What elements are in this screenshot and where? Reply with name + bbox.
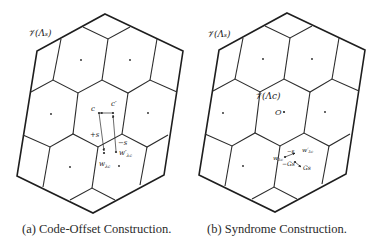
code-offset-vectors: [98, 112, 117, 154]
caption-panel-a: (a) Code-Offset Construction.: [22, 222, 171, 237]
label-c: c: [91, 105, 95, 113]
arrow-minus-s: [113, 115, 116, 151]
label-c-prime: c′: [111, 100, 117, 108]
label-w-prime-lambda-c: w′λc: [302, 146, 314, 154]
figure-canvas: 𝒱(Λₛ) c c′ +s −s wλc w′λc: [0, 0, 375, 246]
coarse-region-label-b: 𝒱(Λₛ): [207, 29, 231, 39]
fine-voronoi-cell-edges: [205, 26, 359, 199]
label-minus-s: −s: [118, 139, 128, 147]
label-w-lambda-c: wλc: [99, 160, 111, 169]
coarse-region-label-a: 𝒱(Λₛ): [28, 28, 52, 38]
coarse-voronoi-region-outline: [199, 13, 365, 212]
panel-a-code-offset: 𝒱(Λₛ) c c′ +s −s wλc w′λc: [17, 14, 183, 213]
label-Gs: Gs: [303, 164, 311, 171]
label-plus-s: +s: [90, 131, 100, 139]
label-w-prime-lambda-c: w′λc: [119, 149, 132, 158]
arrow-minus-Gs-to-Gs: [295, 162, 301, 167]
fine-voronoi-cell-edges: [23, 27, 177, 200]
caption-panel-b: (b) Syndrome Construction.: [207, 222, 347, 237]
fine-region-label: 𝒱(Λc): [255, 91, 281, 101]
label-minus-s: −s: [287, 148, 295, 154]
coarse-voronoi-region-outline: [17, 14, 183, 213]
panel-b-syndrome: 𝒱(Λₛ) 𝒱(Λc) O wλc w′λc −s −Gs Gs: [199, 13, 365, 212]
origin-label: O: [275, 108, 282, 117]
label-minus-Gs: −Gs: [282, 160, 295, 167]
